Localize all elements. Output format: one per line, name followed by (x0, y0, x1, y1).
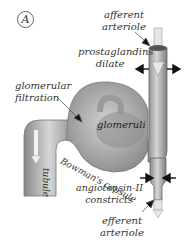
glomerular-filtration-label: glomerular filtration (15, 80, 71, 104)
prostaglandins-label: prostaglandins dilate (78, 46, 142, 70)
efferent-label-line2: arteriole (98, 227, 146, 239)
efferent-arteriole-label: efferent arteriole (98, 215, 146, 239)
tubule-label: tubule (40, 168, 52, 197)
prostaglandins-line1: prostaglandins (78, 46, 142, 58)
glomeruli-label: glomeruli (97, 119, 146, 131)
glomerular-filtration-line1: glomerular (15, 80, 71, 92)
efferent-label-line1: efferent (98, 215, 146, 227)
afferent-label-line1: afferent (96, 9, 152, 21)
nephron-diagram (0, 0, 191, 248)
afferent-arteriole-label: afferent arteriole (96, 9, 152, 33)
angiotensin-label: angiotensin-II constricts (76, 182, 142, 206)
angiotensin-line2: constricts (76, 194, 142, 206)
efferent-arteriole-shape (150, 158, 166, 218)
angiotensin-line1: angiotensin-II (76, 182, 142, 194)
afferent-label-line2: arteriole (96, 21, 152, 33)
prostaglandins-line2: dilate (78, 58, 142, 70)
glomerular-filtration-line2: filtration (15, 92, 71, 104)
